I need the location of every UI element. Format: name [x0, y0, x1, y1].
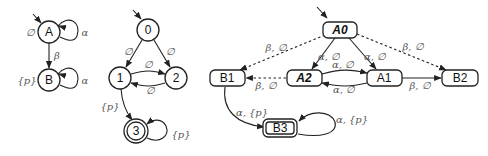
edge-label-A-A: α [82, 27, 89, 38]
edge-label-2-1: ∅ [146, 85, 156, 96]
edge-label-B-B: α [82, 75, 89, 86]
state-A1-label: A1 [377, 71, 392, 85]
edge-label-B3-B3: α, {p} [336, 114, 368, 125]
state-0-label: 0 [145, 23, 152, 37]
edge-label-A1-B2: β, ∅ [408, 80, 431, 91]
edge-3-3 [147, 120, 167, 140]
edge-label-0-2: ∅ [166, 46, 176, 57]
diagram-2: ∅ ∅ ∅ ∅ {p} {p} 0 1 2 3 [100, 10, 190, 143]
automata-figure: α β α A ∅ B {p} ∅ ∅ ∅ ∅ {p} {p} [0, 0, 488, 156]
edge-1-2 [131, 71, 165, 74]
state-B1-label: B1 [220, 71, 235, 85]
initial-arrow-A [33, 14, 41, 23]
edge-label-3-3: {p} [171, 129, 190, 140]
edge-B-B [58, 68, 78, 88]
edge-label-A2-B1: β, ∅ [254, 80, 277, 91]
state-A0-label: A0 [331, 23, 348, 37]
state-B2-label: B2 [453, 71, 468, 85]
edge-label-A1-A2: α, ∅ [333, 84, 356, 95]
state-2-label: 2 [173, 71, 180, 85]
state-A-label: A [45, 25, 53, 39]
edge-label-A0-A1: α, ∅ [364, 51, 387, 62]
edge-A0-B1 [240, 35, 325, 70]
edge-label-B1-B3: α, {p} [236, 107, 268, 118]
edge-A2-A1 [322, 70, 367, 74]
edge-label-1-2: ∅ [144, 59, 154, 70]
edge-label-A-B: β [53, 50, 60, 61]
edge-label-0-1: ∅ [124, 46, 134, 57]
edge-label-A0-B1: β, ∅ [264, 42, 287, 53]
edge-1-3 [121, 89, 132, 120]
edge-label-A0-B2: β, ∅ [401, 41, 424, 52]
state-B-label: B [45, 73, 53, 87]
state-B3-label: B3 [273, 121, 288, 135]
state-B-annotation: {p} [17, 75, 36, 86]
edge-B3-B3 [298, 113, 335, 136]
edge-label-A2-A1: α, ∅ [332, 59, 355, 70]
initial-arrow-A0 [317, 7, 327, 18]
state-3-label: 3 [133, 124, 140, 138]
state-1-label: 1 [117, 71, 124, 85]
initial-arrow-0 [133, 10, 141, 19]
state-A-annotation: ∅ [26, 27, 36, 38]
diagram-3: β, ∅ α, ∅ α, ∅ β, ∅ α, ∅ α, ∅ β, ∅ β, ∅ … [210, 7, 478, 137]
diagram-1: α β α A ∅ B {p} [17, 14, 88, 91]
edge-label-1-3: {p} [100, 101, 119, 112]
edge-A-A [58, 20, 78, 40]
state-A2-label: A2 [295, 71, 312, 85]
